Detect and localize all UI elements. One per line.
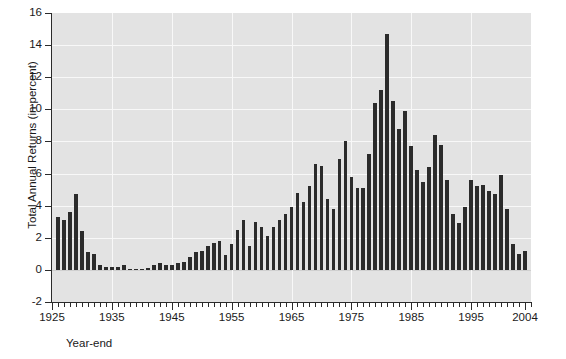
x-axis-tick <box>477 303 478 307</box>
x-axis-tick <box>94 303 95 307</box>
x-axis-tick <box>417 303 418 307</box>
bar <box>194 252 198 270</box>
bar <box>415 170 419 270</box>
bars-layer <box>52 13 531 302</box>
x-axis-tick <box>393 303 394 307</box>
x-axis-tick <box>106 303 107 307</box>
bar <box>218 241 222 270</box>
bar <box>170 265 174 270</box>
bar <box>272 227 276 270</box>
bar <box>314 164 318 270</box>
bar <box>356 188 360 270</box>
x-axis-tick <box>112 303 113 310</box>
bar <box>62 220 66 270</box>
bar <box>445 180 449 270</box>
x-axis-tick <box>459 303 460 307</box>
x-axis-tick <box>238 303 239 307</box>
y-axis-tick-label: 16 <box>2 7 42 18</box>
x-axis-tick <box>369 303 370 307</box>
bar <box>104 267 108 270</box>
x-axis-tick <box>363 303 364 307</box>
x-axis-tick <box>441 303 442 307</box>
x-axis-tick <box>339 303 340 307</box>
bar <box>493 194 497 269</box>
x-axis-tick <box>465 303 466 307</box>
x-axis-tick <box>387 303 388 307</box>
x-axis-tick-label: 1965 <box>267 311 317 323</box>
y-axis-tick-label: 0 <box>2 264 42 275</box>
bar <box>278 220 282 270</box>
x-axis-tick <box>483 303 484 307</box>
bar <box>523 251 527 270</box>
x-axis-tick <box>136 303 137 307</box>
bar <box>505 209 509 270</box>
x-axis-tick <box>64 303 65 307</box>
bar <box>421 182 425 270</box>
y-axis-tick <box>45 109 51 110</box>
x-axis-tick <box>124 303 125 307</box>
bar <box>475 186 479 269</box>
x-axis-tick <box>453 303 454 307</box>
bar <box>350 177 354 270</box>
x-axis-tick <box>76 303 77 307</box>
x-axis-tick <box>148 303 149 307</box>
bar <box>212 243 216 270</box>
bar <box>224 255 228 269</box>
x-axis-title: Year-end <box>66 337 112 349</box>
x-axis-tick <box>118 303 119 307</box>
x-axis-tick <box>333 303 334 307</box>
bar <box>200 251 204 270</box>
bar <box>499 175 503 270</box>
bar <box>176 263 180 269</box>
x-axis-tick <box>196 303 197 307</box>
bar <box>367 154 371 270</box>
x-axis-tick <box>130 303 131 307</box>
y-axis-tick <box>45 45 51 46</box>
x-axis-tick <box>202 303 203 307</box>
bar <box>146 268 150 270</box>
bar <box>242 220 246 270</box>
x-axis-tick-label: 1985 <box>386 311 436 323</box>
y-axis-tick-label: 12 <box>2 71 42 82</box>
bar <box>182 262 186 270</box>
y-axis-tick-label: 10 <box>2 103 42 114</box>
x-axis-tick <box>208 303 209 307</box>
x-axis-tick <box>507 303 508 307</box>
x-axis-tick <box>381 303 382 307</box>
x-axis-tick-label: 1955 <box>207 311 257 323</box>
bar <box>74 194 78 269</box>
x-axis-tick <box>70 303 71 307</box>
bar <box>140 269 144 270</box>
x-axis-tick <box>429 303 430 307</box>
bar <box>116 267 120 270</box>
y-axis-tick-label: 14 <box>2 39 42 50</box>
bar <box>487 191 491 270</box>
x-axis-tick <box>411 303 412 310</box>
bar <box>463 207 467 270</box>
x-axis-tick <box>154 303 155 307</box>
y-axis-line <box>51 13 52 303</box>
bar <box>373 103 377 270</box>
x-axis-tick-label: 1995 <box>446 311 496 323</box>
bar <box>80 231 84 270</box>
bar <box>320 166 324 270</box>
x-axis-tick <box>256 303 257 307</box>
bar <box>517 254 521 270</box>
x-axis-tick <box>321 303 322 307</box>
x-axis-tick <box>160 303 161 307</box>
bar <box>338 159 342 270</box>
y-axis-tick-label: 6 <box>2 168 42 179</box>
bar <box>457 223 461 270</box>
x-axis-tick <box>88 303 89 307</box>
bar <box>92 254 96 270</box>
y-axis-tick <box>45 206 51 207</box>
x-axis-tick <box>280 303 281 307</box>
y-axis-tick-label: 2 <box>2 232 42 243</box>
x-axis-tick <box>495 303 496 307</box>
y-axis-tick <box>45 270 51 271</box>
x-axis-tick <box>82 303 83 307</box>
bar <box>326 199 330 270</box>
bar <box>439 145 443 270</box>
plot-area <box>52 13 531 302</box>
x-axis-tick <box>471 303 472 310</box>
